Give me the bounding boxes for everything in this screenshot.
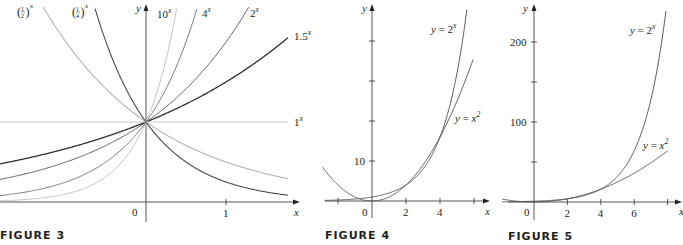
svg-text:): ) [81,5,85,19]
fig5-x-axis-arrow-icon [675,200,682,205]
fig3-label-1-power-x: 1x [294,114,304,128]
svg-text:4: 4 [76,13,79,19]
figure-3-plot: 01xy(12)x(14)x10x4x2x1.5x1x [0,2,312,222]
fig3-label-quarter-power-x: (14)x [72,2,89,19]
fig5-y-tick-label-200: 200 [510,36,527,48]
fig4-x-axis-arrow-icon [483,199,490,204]
fig3-curve-4x [0,9,197,196]
fig3-x-tick-label-1: 1 [223,207,229,219]
fig5-y-label: y [522,2,528,14]
svg-text:x: x [84,2,89,10]
fig5-x-tick-label-2: 2 [564,207,570,219]
fig4-x-tick-label-2: 2 [403,206,409,218]
svg-text:1: 1 [76,6,79,12]
svg-text:1: 1 [21,6,24,12]
fig3-x-label: x [293,206,299,218]
fig4-y-tick-label-10: 10 [354,155,366,167]
fig3-curve-1.5x [0,38,288,164]
fig3-y-label: y [135,2,141,14]
fig5-curve-exp2 [502,11,666,202]
fig3-curve-2x [0,7,249,179]
fig5-x-label: x [678,205,683,217]
fig4-x-label: x [484,205,490,217]
fig3-label-10-power-x: 10x [157,6,172,20]
svg-text:2: 2 [21,13,24,19]
fig5-y-axis-arrow-icon [532,4,537,11]
fig5-x-tick-label-0: 0 [524,206,530,218]
figure-3-caption: FIGURE 3 [0,229,65,242]
fig5-x-tick-label-6: 6 [631,207,637,219]
fig3-y-axis-arrow-icon [144,4,149,11]
fig4-label-2-power-x: y = 2x [430,21,457,35]
fig3-label-half-power-x: (12)x [17,2,34,19]
figure-4-caption: FIGURE 4 [325,229,390,242]
fig5-y-tick-label-100: 100 [510,116,527,128]
figure-canvas: 01xy(12)x(14)x10x4x2x1.5x1x 24010xyy = 2… [0,0,683,245]
figure-5-plot: 2460100200xyy = 2xy = x2 [502,2,683,220]
fig4-x-tick-label-4: 4 [437,206,443,218]
fig4-label-x-squared: y = x2 [454,110,481,124]
fig3-label-1.5-power-x: 1.5x [294,28,312,42]
fig3-label-2-power-x: 2x [250,5,260,19]
fig4-curve-exp2 [324,10,466,201]
fig3-x-tick-label-0: 0 [132,206,138,218]
figure-5-caption: FIGURE 5 [508,230,573,243]
fig3-curve-12x [43,7,288,179]
fig5-x-tick-label-4: 4 [598,207,604,219]
fig4-curve-square [323,59,473,201]
fig3-curve-10x [0,9,177,201]
figure-4-plot: 24010xyy = 2xy = x2 [323,2,490,218]
fig4-y-label: y [361,2,367,14]
fig5-curve-square [502,151,667,202]
fig5-label-x-squared: y = x2 [642,137,669,151]
fig5-label-2-power-x: y = 2x [629,22,656,36]
fig3-x-axis-arrow-icon [293,200,300,205]
svg-text:): ) [26,5,30,19]
fig4-x-tick-label-0: 0 [362,206,368,218]
fig4-y-axis-arrow-icon [370,4,375,11]
fig3-label-4-power-x: 4x [202,5,212,19]
svg-text:x: x [29,2,34,10]
